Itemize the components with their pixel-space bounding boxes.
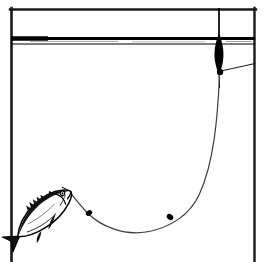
float-attachment-bead-icon [217,69,223,75]
fishing-rig-illustration: Float fishing rig with hooked fish below… [0,0,266,262]
figure-canvas: Float fishing rig with hooked fish below… [0,0,266,262]
